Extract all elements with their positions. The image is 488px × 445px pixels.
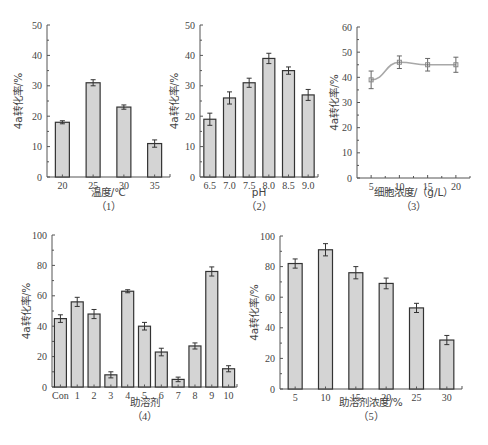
bar: [410, 308, 424, 389]
y-tick-label: 40: [185, 50, 195, 61]
bar: [204, 119, 216, 177]
y-tick-label: 30: [185, 80, 195, 91]
y-axis-label: 4a转化率/%: [20, 283, 32, 340]
y-tick-label: 0: [42, 382, 47, 393]
panel-caption: （4）: [132, 411, 157, 422]
figure-canvas: 010203040504a转化率/%温度/℃（1）20253035 010203…: [0, 0, 488, 445]
x-tick-label: 3: [108, 390, 113, 401]
bar: [440, 340, 454, 389]
y-tick-label: 60: [37, 290, 47, 301]
x-tick-label: 10: [224, 390, 234, 401]
panel-caption: （1）: [96, 201, 121, 212]
x-tick-label: 10: [394, 181, 404, 192]
bar: [148, 144, 162, 177]
x-tick-label: 15: [423, 181, 433, 192]
y-tick-label: 60: [342, 22, 352, 33]
bar: [139, 326, 151, 387]
x-tick-label: 25: [88, 180, 98, 191]
x-tick-label: 9.0: [302, 180, 315, 191]
x-tick-label: 6: [159, 390, 164, 401]
x-tick-label: 4: [125, 390, 130, 401]
bar: [283, 71, 295, 177]
x-tick-label: 1: [75, 390, 80, 401]
chart-cosolvent-concentration: 0204060801004a转化率/%助溶剂浓度/%（5）51015202530: [248, 231, 462, 423]
x-tick-label: 2: [92, 390, 97, 401]
x-tick-label: 7.0: [223, 180, 236, 191]
bar: [55, 122, 69, 177]
x-tick-label: 30: [119, 180, 129, 191]
x-tick-label: 5: [293, 392, 298, 403]
panel-caption: （5）: [358, 411, 383, 422]
bar: [155, 352, 167, 387]
y-tick-label: 40: [37, 321, 47, 332]
bar: [86, 83, 100, 177]
bar: [263, 58, 275, 177]
y-axis-label: 4a转化率/%: [248, 284, 260, 341]
bar: [319, 250, 333, 389]
chart-ph: 010203040504a转化率/%pH（2）6.57.07.58.08.59.…: [168, 20, 318, 213]
panel-caption: （2）: [246, 201, 271, 212]
x-tick-label: 9: [209, 390, 214, 401]
y-tick-label: 40: [342, 72, 352, 83]
bar: [288, 264, 302, 389]
y-tick-label: 40: [265, 322, 275, 333]
bar: [206, 271, 218, 387]
y-tick-label: 80: [265, 261, 275, 272]
bar: [302, 95, 314, 177]
y-tick-label: 100: [260, 231, 275, 242]
bar: [224, 98, 236, 177]
x-tick-label: 20: [381, 392, 391, 403]
data-line: [371, 62, 456, 80]
y-tick-label: 50: [342, 47, 352, 58]
y-tick-label: 80: [37, 260, 47, 271]
chart-cosolvent: 0204060801004a转化率/%助溶剂（4）Con12345678910: [20, 230, 237, 423]
x-tick-label: 8.0: [263, 180, 276, 191]
bar: [117, 107, 131, 177]
bar: [349, 273, 363, 389]
y-tick-label: 0: [347, 173, 352, 184]
y-tick-label: 10: [32, 141, 42, 152]
y-tick-label: 10: [342, 147, 352, 158]
x-axis-label: 助溶剂浓度/%: [339, 396, 403, 408]
x-tick-label: 25: [412, 392, 422, 403]
x-tick-label: 10: [321, 392, 331, 403]
x-tick-label: 8: [192, 390, 197, 401]
x-tick-label: Con: [52, 390, 69, 401]
y-tick-label: 40: [32, 50, 42, 61]
x-tick-label: 20: [451, 181, 461, 192]
x-tick-label: 20: [57, 180, 67, 191]
bar: [88, 314, 100, 387]
bar: [243, 83, 255, 177]
chart-temperature: 010203040504a转化率/%温度/℃（1）20253035: [12, 20, 170, 213]
x-tick-label: 5: [369, 181, 374, 192]
x-tick-label: 7: [176, 390, 181, 401]
y-tick-label: 0: [270, 384, 275, 395]
y-tick-label: 20: [265, 353, 275, 364]
y-axis-label: 4a转化率/%: [328, 74, 340, 131]
y-tick-label: 30: [32, 80, 42, 91]
x-tick-label: 6.5: [204, 180, 217, 191]
y-tick-label: 10: [185, 141, 195, 152]
y-tick-label: 20: [185, 111, 195, 122]
x-tick-label: 15: [351, 392, 361, 403]
y-tick-label: 100: [32, 230, 47, 241]
y-tick-label: 20: [37, 351, 47, 362]
bar: [54, 319, 66, 387]
bar: [379, 283, 393, 389]
bar: [71, 302, 83, 387]
bar: [189, 346, 201, 387]
x-axis-label: 细胞浓度/（g/L）: [374, 186, 454, 198]
x-tick-label: 5: [142, 390, 147, 401]
chart-cell-concentration: 01020304050604a转化率/%细胞浓度/（g/L）（3）5101520: [328, 22, 470, 213]
y-tick-label: 50: [32, 20, 42, 31]
y-tick-label: 60: [265, 292, 275, 303]
y-tick-label: 20: [32, 111, 42, 122]
y-axis-label: 4a转化率/%: [12, 73, 24, 130]
x-tick-label: 30: [442, 392, 452, 403]
bar: [122, 291, 134, 387]
x-tick-label: 35: [150, 180, 160, 191]
x-tick-label: 8.5: [282, 180, 295, 191]
y-axis-label: 4a转化率/%: [168, 73, 180, 130]
y-tick-label: 20: [342, 122, 352, 133]
y-tick-label: 0: [190, 172, 195, 183]
